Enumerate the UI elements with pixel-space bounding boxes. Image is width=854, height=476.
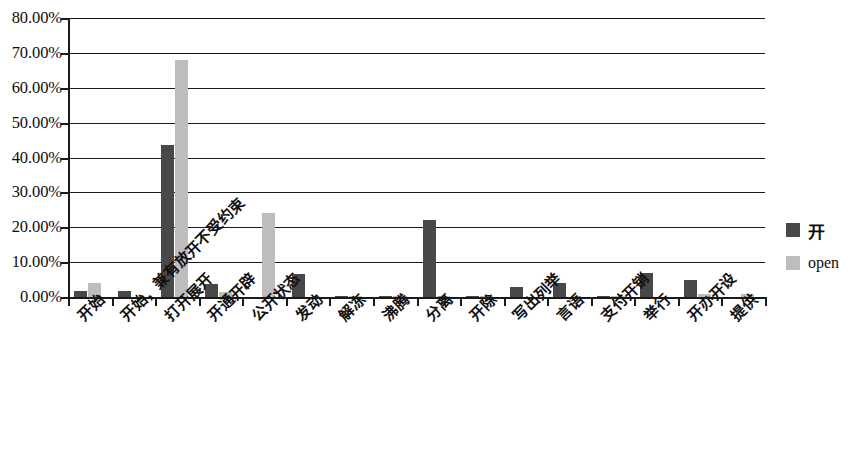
bar-group (678, 18, 722, 297)
y-axis-tick-mark (61, 192, 68, 194)
y-axis-tick-mark (61, 297, 68, 299)
legend-swatch-icon (786, 223, 800, 237)
bar-0 (640, 273, 653, 297)
bar-0 (292, 274, 305, 297)
x-axis-tick (286, 297, 288, 306)
y-axis-tick-label: 10.00% (12, 252, 62, 272)
bar-group (634, 18, 678, 297)
x-axis-tick (329, 297, 331, 306)
y-axis-tick-mark (61, 158, 68, 160)
x-axis-tick (547, 297, 549, 306)
bar-group (591, 18, 635, 297)
x-axis-tick (242, 297, 244, 306)
x-axis-tick (591, 297, 593, 306)
y-axis-tick-mark (61, 123, 68, 125)
legend-swatch-icon (786, 256, 800, 270)
y-axis-tick-mark (61, 88, 68, 90)
bar-group (242, 18, 286, 297)
y-axis-tick-label: 50.00% (12, 113, 62, 133)
x-axis-ticks (68, 297, 765, 306)
y-axis-tick-label: 80.00% (12, 8, 62, 28)
bars-layer (68, 18, 765, 297)
y-axis-tick-label: 30.00% (12, 182, 62, 202)
x-axis-tick (634, 297, 636, 306)
y-axis-tick-label: 70.00% (12, 43, 62, 63)
bar-group (112, 18, 156, 297)
x-axis-tick (721, 297, 723, 306)
bar-1 (88, 283, 101, 297)
chart-legend: 开open (786, 221, 850, 287)
legend-label: 开 (808, 218, 825, 243)
bar-0 (161, 145, 174, 297)
bar-group (547, 18, 591, 297)
x-axis-tick (460, 297, 462, 306)
bar-group (155, 18, 199, 297)
chart-page: 80.00%70.00%60.00%50.00%40.00%30.00%20.0… (0, 0, 854, 476)
x-axis-tick (155, 297, 157, 306)
plot-area (68, 18, 765, 297)
bar-group (329, 18, 373, 297)
bar-group (417, 18, 461, 297)
y-axis: 80.00%70.00%60.00%50.00%40.00%30.00%20.0… (0, 0, 62, 320)
y-axis-tick-mark (61, 262, 68, 264)
bar-group (199, 18, 243, 297)
bar-group (68, 18, 112, 297)
y-axis-tick-label: 0.00% (20, 287, 62, 307)
x-axis-tick (417, 297, 419, 306)
y-axis-tick-label: 60.00% (12, 78, 62, 98)
bar-0 (205, 284, 218, 297)
bar-1 (262, 213, 275, 297)
bar-0 (510, 287, 523, 297)
y-axis-tick-label: 20.00% (12, 217, 62, 237)
x-axis-tick (504, 297, 506, 306)
bar-group (373, 18, 417, 297)
bar-0 (684, 280, 697, 297)
x-axis-tick (68, 297, 70, 306)
legend-item: open (786, 254, 850, 272)
bar-group (721, 18, 765, 297)
legend-label: open (808, 254, 839, 272)
x-axis-tick (765, 297, 767, 306)
y-axis-tick-mark (61, 53, 68, 55)
x-axis-tick (199, 297, 201, 306)
y-axis-tick-mark (61, 18, 68, 20)
bar-0 (553, 283, 566, 297)
bar-group (504, 18, 548, 297)
bar-0 (423, 220, 436, 297)
y-axis-tick-label: 40.00% (12, 148, 62, 168)
bar-group (286, 18, 330, 297)
x-axis-tick (678, 297, 680, 306)
legend-item: 开 (786, 221, 850, 239)
x-axis-tick (373, 297, 375, 306)
x-axis-tick (112, 297, 114, 306)
bar-group (460, 18, 504, 297)
y-axis-tick-mark (61, 227, 68, 229)
bar-1 (175, 60, 188, 297)
